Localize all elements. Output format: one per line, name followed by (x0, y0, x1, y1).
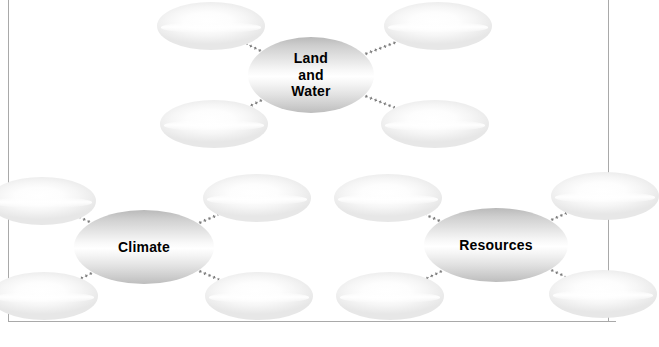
connector-climate-top-right (198, 213, 219, 225)
central-oval-climate-label: Climate (118, 239, 170, 256)
satellite-oval-resources-top-left[interactable] (334, 174, 442, 222)
connector-land-water-top-right (364, 40, 398, 56)
satellite-oval-land-water-bottom-right[interactable] (381, 100, 489, 148)
satellite-oval-land-water-top-left[interactable] (157, 2, 265, 50)
connector-climate-bottom-right (198, 269, 221, 281)
connector-resources-bottom-left (426, 269, 444, 280)
central-oval-climate[interactable]: Climate (74, 210, 214, 284)
central-oval-resources-label: Resources (459, 237, 532, 254)
frame-bottom-border (8, 321, 616, 322)
satellite-oval-land-water-bottom-left[interactable] (160, 100, 268, 148)
central-oval-resources[interactable]: Resources (424, 208, 568, 282)
satellite-oval-land-water-top-right[interactable] (384, 2, 492, 50)
satellite-oval-resources-top-right[interactable] (551, 172, 659, 220)
central-oval-land-and-water[interactable]: LandandWater (248, 37, 374, 113)
connector-resources-top-right (550, 212, 568, 222)
satellite-oval-resources-bottom-right[interactable] (549, 270, 657, 318)
satellite-oval-climate-top-right[interactable] (203, 174, 311, 222)
connector-land-water-bottom-right (363, 94, 395, 109)
central-oval-land-and-water-label: LandandWater (291, 50, 330, 100)
satellite-oval-climate-bottom-right[interactable] (205, 272, 313, 320)
frame-left-border (8, 0, 9, 322)
satellite-oval-climate-bottom-left[interactable] (0, 272, 98, 320)
satellite-oval-resources-bottom-left[interactable] (336, 272, 444, 320)
